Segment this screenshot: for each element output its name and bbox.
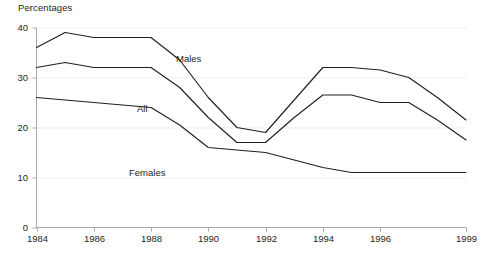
x-tick-label: 1984 [18, 233, 58, 244]
x-tick-label: 1986 [75, 233, 115, 244]
x-tick-label: 1988 [132, 233, 172, 244]
y-axis-ticks [33, 28, 37, 228]
series-label-males: Males [176, 53, 201, 64]
x-axis-ticks [38, 228, 467, 232]
data-series-group [37, 33, 467, 173]
x-tick-label: 1999 [447, 233, 482, 244]
y-tick-label: 10 [2, 172, 28, 183]
x-tick-label: 1994 [304, 233, 344, 244]
x-tick-label: 1992 [247, 233, 287, 244]
y-tick-label: 30 [2, 72, 28, 83]
series-line-females [37, 98, 467, 173]
y-tick-label: 20 [2, 122, 28, 133]
series-line-males [37, 33, 467, 133]
y-tick-label: 0 [2, 222, 28, 233]
x-tick-label: 1990 [189, 233, 229, 244]
y-tick-label: 40 [2, 22, 28, 33]
series-label-all: All [137, 103, 148, 114]
x-tick-label: 1996 [361, 233, 401, 244]
series-label-females: Females [129, 167, 165, 178]
